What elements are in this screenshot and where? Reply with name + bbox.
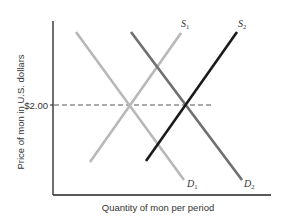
curve-label-d1: D1 [187,178,197,190]
supply-curve-s2 [146,32,237,161]
y-axis-label: Price of mon in U.S. dollars [15,54,26,169]
supply-curve-s1 [90,33,181,162]
curve-label-s1: S1 [181,18,189,30]
x-axis-label: Quantity of mon per period [102,202,214,213]
curve-label-s2: S2 [238,18,246,30]
y-tick-label: $2.00 [24,100,48,111]
curve-label-d2: D2 [244,178,254,190]
